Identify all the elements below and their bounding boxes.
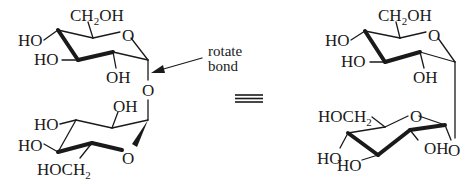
right-structure: CH2OH O HO HO OH O HOCH2 OH O HO HO [317, 6, 460, 175]
hoch2-label: HOCH2 [37, 160, 91, 181]
ring-oxygen-label: O [122, 26, 134, 45]
oh-label: OH [424, 139, 449, 158]
rotate-arrow [151, 58, 202, 73]
ho-label: HO [341, 52, 366, 71]
equivalence-symbol [235, 95, 263, 102]
oh-label: OH [413, 68, 438, 87]
bond-label: bond [208, 58, 239, 74]
glycosidic-oxygen-label: O [142, 81, 154, 100]
ho-label: HO [18, 31, 43, 50]
ring-oxygen-label: O [122, 149, 134, 168]
glycosidic-oxygen-label: O [448, 141, 460, 160]
ring-oxygen-label: O [410, 107, 422, 126]
oh-label: OH [113, 97, 138, 116]
ho-label: HO [325, 31, 350, 50]
oh-label: OH [106, 68, 131, 87]
ho-label: HO [337, 156, 362, 175]
ho-label: HO [18, 136, 43, 155]
wedge-bond [132, 120, 148, 147]
ring-oxygen-label: O [428, 26, 440, 45]
hoch2-label: HOCH2 [318, 107, 372, 128]
disaccharide-diagram: CH2OH O HO HO OH O OH HO HO O HOCH2 [0, 0, 474, 191]
ho-label: HO [34, 50, 59, 69]
rotate-label: rotate [208, 43, 242, 59]
ch2oh-label: CH2OH [378, 6, 432, 27]
arrowhead-icon [151, 65, 165, 73]
ch2oh-label: CH2OH [70, 6, 124, 27]
left-structure: CH2OH O HO HO OH O OH HO HO O HOCH2 [18, 6, 242, 181]
ho-label: HO [34, 115, 59, 134]
